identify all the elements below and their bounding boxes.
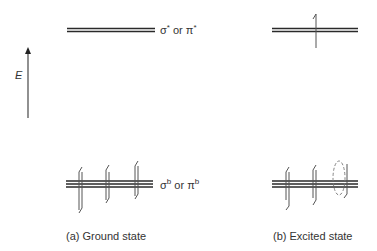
hole-dashed-ellipse <box>333 161 345 195</box>
electron-pair <box>286 167 289 210</box>
hole-and-electron <box>333 161 347 198</box>
panel-excited-state: (b) Excited state <box>272 14 358 242</box>
electron-pair <box>135 161 138 199</box>
antibonding-level <box>67 29 155 32</box>
panel-caption: (b) Excited state <box>273 230 352 242</box>
energy-axis: E <box>15 47 31 118</box>
panel-caption: (a) Ground state <box>66 230 146 242</box>
bonding-level <box>272 181 358 187</box>
energy-label: E <box>15 69 23 81</box>
electron-pair <box>313 165 316 205</box>
orbital-energy-diagram: E σ* or π* σb or π <box>0 0 377 251</box>
electron-pair <box>79 167 82 213</box>
antibonding-level <box>272 29 358 32</box>
arrow-up-icon <box>25 47 31 54</box>
bonding-label: σb or πb <box>160 177 200 191</box>
antibonding-label: σ* or π* <box>160 23 197 36</box>
panel-ground-state: σ* or π* σb or πb (a) Ground state <box>66 23 200 242</box>
